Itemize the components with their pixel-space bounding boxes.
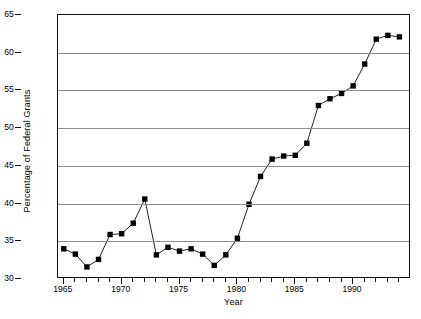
- data-point-1992: [374, 36, 379, 41]
- gridline-y-45: [58, 166, 409, 167]
- data-point-1986: [304, 141, 309, 146]
- x-tick-mark-1992: [375, 278, 376, 282]
- data-point-1990: [350, 83, 355, 88]
- y-tick-label-65: 65: [4, 10, 14, 19]
- x-axis-title: Year: [57, 297, 410, 307]
- x-tick-mark-1979: [225, 278, 226, 282]
- y-tick-mark-30: [15, 278, 21, 279]
- data-point-1965: [61, 246, 66, 251]
- gridline-y-40: [58, 204, 409, 205]
- data-point-1985: [293, 153, 298, 158]
- y-tick-label-35: 35: [4, 236, 14, 245]
- data-point-1991: [362, 61, 367, 66]
- x-tick-mark-1988: [329, 278, 330, 282]
- y-tick-mark-35: [15, 240, 21, 241]
- data-series-layer: [58, 15, 411, 279]
- x-tick-label-1970: 1970: [111, 285, 130, 294]
- x-tick-label-1980: 1980: [227, 285, 246, 294]
- gridline-y-50: [58, 128, 409, 129]
- data-point-1993: [385, 33, 390, 38]
- data-point-1966: [73, 251, 78, 256]
- y-tick-label-60: 60: [4, 47, 14, 56]
- y-tick-mark-55: [15, 89, 21, 90]
- data-point-1989: [339, 91, 344, 96]
- x-tick-mark-1976: [190, 278, 191, 282]
- x-tick-label-1985: 1985: [285, 285, 304, 294]
- y-tick-mark-50: [15, 127, 21, 128]
- data-point-1968: [96, 257, 101, 262]
- y-tick-mark-60: [15, 52, 21, 53]
- x-tick-mark-1986: [306, 278, 307, 282]
- x-tick-label-1990: 1990: [343, 285, 362, 294]
- data-point-1974: [165, 245, 170, 250]
- x-tick-mark-1989: [341, 278, 342, 282]
- y-tick-mark-65: [15, 14, 21, 15]
- data-point-1977: [200, 251, 205, 256]
- data-point-1970: [119, 231, 124, 236]
- x-tick-mark-1972: [144, 278, 145, 282]
- x-tick-mark-1967: [86, 278, 87, 282]
- x-tick-mark-1977: [202, 278, 203, 282]
- gridline-y-60: [58, 53, 409, 54]
- data-point-1969: [107, 232, 112, 237]
- x-tick-label-1975: 1975: [169, 285, 188, 294]
- data-point-1982: [258, 174, 263, 179]
- data-point-1988: [327, 96, 332, 101]
- chart-container: Percentage of Federal Grants 30354045505…: [0, 0, 421, 319]
- data-point-1967: [84, 264, 89, 269]
- x-tick-mark-1984: [283, 278, 284, 282]
- data-point-1984: [281, 153, 286, 158]
- x-tick-mark-1982: [260, 278, 261, 282]
- plot-area: [57, 14, 410, 278]
- data-point-1975: [177, 248, 182, 253]
- x-tick-mark-1981: [248, 278, 249, 282]
- data-point-1973: [154, 252, 159, 257]
- data-point-1978: [212, 263, 217, 268]
- x-tick-mark-1983: [271, 278, 272, 282]
- data-point-1979: [223, 252, 228, 257]
- x-tick-mark-1987: [317, 278, 318, 282]
- x-tick-mark-1978: [213, 278, 214, 282]
- x-tick-mark-1993: [387, 278, 388, 282]
- x-tick-mark-1973: [155, 278, 156, 282]
- data-point-1980: [235, 236, 240, 241]
- y-tick-label-40: 40: [4, 198, 14, 207]
- y-axis-tick-labels: 3035404550556065: [0, 0, 57, 319]
- data-line: [64, 35, 400, 267]
- data-point-1971: [131, 220, 136, 225]
- x-tick-mark-1974: [167, 278, 168, 282]
- y-tick-label-45: 45: [4, 161, 14, 170]
- gridline-y-55: [58, 90, 409, 91]
- data-point-1972: [142, 196, 147, 201]
- x-tick-mark-1969: [109, 278, 110, 282]
- y-tick-label-30: 30: [4, 274, 14, 283]
- x-tick-mark-1991: [364, 278, 365, 282]
- y-tick-mark-45: [15, 165, 21, 166]
- x-tick-mark-1994: [398, 278, 399, 282]
- data-point-1983: [269, 156, 274, 161]
- y-tick-label-55: 55: [4, 85, 14, 94]
- data-point-1987: [316, 103, 321, 108]
- gridline-y-35: [58, 241, 409, 242]
- data-point-1976: [188, 246, 193, 251]
- y-tick-mark-40: [15, 203, 21, 204]
- x-tick-mark-1971: [132, 278, 133, 282]
- x-tick-label-1965: 1965: [53, 285, 72, 294]
- x-tick-mark-1968: [98, 278, 99, 282]
- x-tick-mark-1966: [74, 278, 75, 282]
- y-tick-label-50: 50: [4, 123, 14, 132]
- data-point-1994: [397, 34, 402, 39]
